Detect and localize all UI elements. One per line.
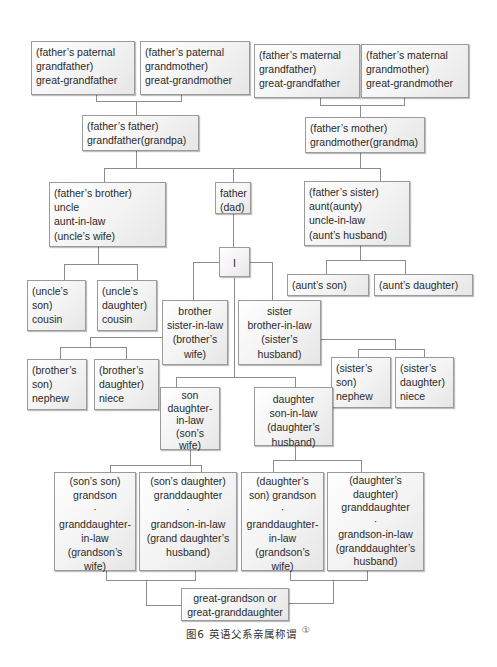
caption-text: 图6 英语父系亲属称谓 bbox=[186, 628, 297, 640]
node-me: I bbox=[219, 247, 250, 277]
node-father: father (dad) bbox=[215, 182, 251, 214]
connector bbox=[181, 94, 182, 102]
node-fathers-paternal-grandmother: (father’s paternal grandmother) great-gr… bbox=[140, 41, 250, 95]
connector bbox=[380, 168, 381, 181]
connector bbox=[146, 580, 147, 606]
connector bbox=[320, 339, 396, 340]
node-fathers-maternal-grandfather: (father’s maternal grandfather) great-gr… bbox=[254, 44, 360, 98]
node-aunt: (father’s sister) aunt(aunty) uncle-in-l… bbox=[304, 181, 410, 246]
connector bbox=[295, 377, 296, 387]
connector bbox=[289, 603, 334, 604]
node-brothers-daughter-niece: (brother’s daughter) niece bbox=[94, 359, 159, 410]
connector bbox=[106, 580, 196, 581]
node-aunts-daughter: (aunt’s daughter) bbox=[374, 274, 473, 296]
connector bbox=[233, 168, 234, 182]
node-fathers-maternal-grandmother: (father’s maternal grandmother) great-gr… bbox=[361, 44, 469, 98]
node-aunts-son: (aunt’s son) bbox=[287, 274, 369, 296]
connector bbox=[96, 101, 182, 102]
connector bbox=[326, 260, 406, 261]
connector bbox=[404, 97, 405, 106]
connector bbox=[90, 337, 162, 338]
connector bbox=[326, 260, 327, 274]
connector bbox=[320, 105, 405, 106]
connector bbox=[146, 605, 182, 606]
connector bbox=[333, 580, 334, 604]
connector bbox=[137, 264, 138, 280]
connector bbox=[195, 571, 196, 581]
node-grandmother: (father’s mother) grandmother(grandma) bbox=[305, 117, 425, 153]
connector bbox=[320, 97, 321, 106]
connector bbox=[360, 152, 361, 168]
node-uncles-son-cousin: (uncle’s son) cousin bbox=[27, 280, 86, 331]
node-daughter: daughter son-in-law (daughter’s husband) bbox=[254, 387, 333, 446]
connector bbox=[361, 460, 362, 472]
connector bbox=[104, 168, 105, 182]
connector bbox=[358, 349, 425, 350]
node-sons-son-grandson: (son’s son) grandson · granddaughter- in… bbox=[54, 472, 136, 571]
node-sister: sister brother-in-law (sister’s husband) bbox=[238, 300, 321, 365]
figure-caption: 图6 英语父系亲属称谓 ① bbox=[0, 625, 497, 641]
node-brother: brother sister-in-law (brother’s wife) bbox=[162, 300, 228, 365]
connector bbox=[136, 101, 137, 115]
connector bbox=[273, 460, 362, 461]
node-great-grandchild: great-grandson or great-granddaughter bbox=[181, 588, 289, 621]
connector bbox=[60, 347, 61, 359]
node-son: son daughter- in-law (son’s wife) bbox=[160, 387, 220, 450]
connector bbox=[64, 264, 138, 265]
connector bbox=[64, 264, 65, 280]
connector bbox=[110, 465, 202, 466]
connector bbox=[360, 105, 361, 117]
connector bbox=[98, 246, 99, 264]
node-grandfather: (father’s father) grandfather(grandpa) bbox=[82, 115, 199, 151]
connector bbox=[233, 213, 234, 247]
node-uncles-daughter-cousin: (uncle’s daughter) cousin bbox=[97, 280, 157, 331]
connector bbox=[104, 168, 381, 169]
node-sons-daughter-granddaughter: (son’s daughter) granddaughter · grandso… bbox=[139, 472, 237, 571]
connector bbox=[273, 460, 274, 472]
connector bbox=[176, 377, 177, 387]
node-brothers-son-nephew: (brother’s son) nephew bbox=[27, 359, 87, 410]
connector bbox=[193, 262, 194, 301]
connector bbox=[136, 150, 137, 168]
connector bbox=[395, 339, 396, 349]
connector bbox=[96, 94, 97, 102]
node-fathers-paternal-grandfather: (father’s paternal grandfather) great-gr… bbox=[31, 41, 135, 95]
connector bbox=[367, 571, 368, 581]
family-tree-diagram: (father’s paternal grandfather) great-gr… bbox=[0, 0, 497, 667]
footnote-mark: ① bbox=[302, 625, 311, 635]
connector bbox=[290, 580, 368, 581]
node-daughters-daughter-granddaughter: (daughter’s daughter) granddaughter · gr… bbox=[327, 472, 424, 571]
connector bbox=[405, 260, 406, 274]
node-sisters-daughter-niece: (sister’s daughter) niece bbox=[395, 357, 454, 408]
connector bbox=[193, 262, 222, 263]
connector bbox=[126, 347, 127, 359]
node-uncle: (father’s brother) uncle aunt-in-law (un… bbox=[49, 182, 166, 247]
connector bbox=[360, 246, 361, 260]
connector bbox=[234, 278, 235, 377]
connector bbox=[249, 262, 272, 263]
node-daughters-son-grandson: (daughter’s son) grandson · granddaughte… bbox=[241, 472, 324, 571]
connector bbox=[90, 337, 91, 347]
connector bbox=[272, 262, 273, 301]
node-sisters-son-nephew: (sister’s son) nephew bbox=[331, 357, 391, 408]
connector bbox=[176, 377, 296, 378]
connector bbox=[60, 347, 127, 348]
